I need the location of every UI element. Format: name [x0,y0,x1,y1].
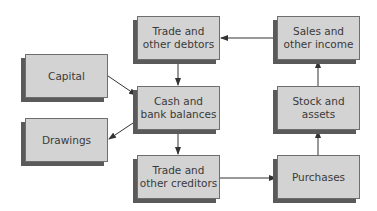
node-label: Capital [48,70,85,83]
node-purchases: Purchases [277,155,360,199]
node-capital: Capital [25,54,108,98]
arrow-cash-to-drawings [109,121,136,139]
node-sales: Sales and other income [277,16,360,60]
node-drawings: Drawings [25,118,108,162]
arrow-capital-to-cash [108,76,136,95]
node-label: Purchases [292,171,345,184]
node-label: Cash and bank balances [141,95,217,121]
node-label: Stock and assets [292,95,344,121]
node-label: Sales and other income [284,25,354,51]
node-label: Drawings [42,134,91,147]
node-stock: Stock and assets [277,86,360,130]
node-label: Trade and other creditors [140,164,218,190]
node-trade-debtors: Trade and other debtors [137,16,220,60]
node-label: Trade and other debtors [143,25,214,51]
node-trade-creditors: Trade and other creditors [137,155,220,199]
node-cash: Cash and bank balances [137,86,220,130]
